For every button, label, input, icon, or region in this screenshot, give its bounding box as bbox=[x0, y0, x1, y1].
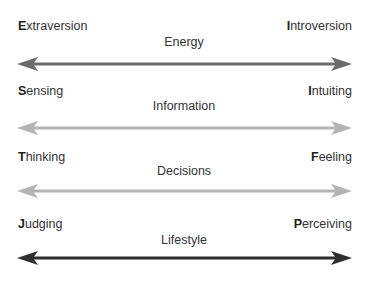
pole-rest: ntroversion bbox=[290, 19, 352, 33]
pole-rest: xtraversion bbox=[26, 19, 87, 33]
pole-sensing: Sensing bbox=[18, 84, 63, 98]
pole-thinking: Thinking bbox=[18, 150, 65, 164]
dimension-label: Energy bbox=[0, 35, 368, 49]
pole-feeling: Feeling bbox=[311, 150, 352, 164]
pole-intuiting: Intuiting bbox=[308, 84, 352, 98]
double-arrow-icon bbox=[0, 181, 368, 201]
double-arrow-icon bbox=[0, 118, 368, 138]
pole-rest: erceiving bbox=[302, 217, 352, 231]
double-arrow-icon bbox=[0, 248, 368, 268]
dimension-label: Decisions bbox=[0, 164, 368, 178]
double-arrow-icon bbox=[0, 54, 368, 74]
pole-rest: udging bbox=[25, 217, 63, 231]
pole-initial: T bbox=[18, 150, 26, 164]
pole-rest: ntuiting bbox=[312, 84, 352, 98]
pole-introversion: Introversion bbox=[287, 19, 352, 33]
pole-judging: Judging bbox=[18, 217, 63, 231]
pole-initial: F bbox=[311, 150, 319, 164]
pole-rest: hinking bbox=[26, 150, 66, 164]
pole-perceiving: Perceiving bbox=[294, 217, 352, 231]
dimension-label: Lifestyle bbox=[0, 233, 368, 247]
pole-rest: eeling bbox=[319, 150, 352, 164]
dimension-label: Information bbox=[0, 99, 368, 113]
pole-rest: ensing bbox=[26, 84, 63, 98]
pole-initial: P bbox=[294, 217, 302, 231]
pole-initial: J bbox=[18, 217, 25, 231]
pole-extraversion: Extraversion bbox=[18, 19, 87, 33]
